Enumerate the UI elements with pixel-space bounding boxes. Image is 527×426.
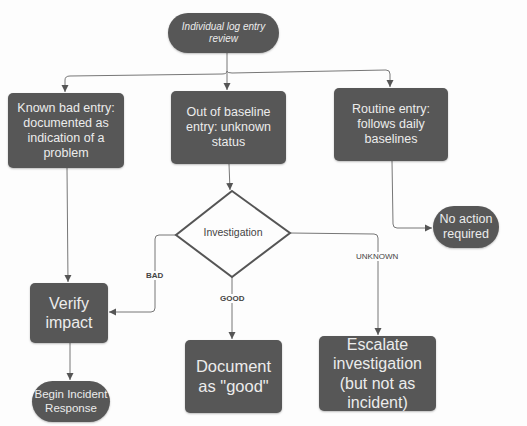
investigation-label: Investigation bbox=[186, 226, 280, 238]
edge-label-good: GOOD bbox=[219, 294, 245, 303]
edge-out-of-baseline-investigation bbox=[229, 164, 230, 190]
edge-label-unknown: UNKNOWN bbox=[355, 252, 399, 261]
edge-start-routine bbox=[227, 70, 390, 87]
verify-impact-node[interactable]: Verify impact bbox=[30, 283, 108, 343]
edge-known-bad-verify bbox=[67, 168, 68, 282]
known-bad-entry-label: Known bad entry: documented as indicatio… bbox=[12, 101, 120, 161]
out-of-baseline-entry-node[interactable]: Out of baseline entry: unknown status bbox=[171, 91, 286, 164]
edge-label-bad: BAD bbox=[145, 271, 164, 280]
out-of-baseline-entry-label: Out of baseline entry: unknown status bbox=[175, 105, 282, 150]
verify-impact-label: Verify impact bbox=[30, 294, 108, 332]
edge-start-known-bad bbox=[65, 71, 227, 92]
routine-entry-label: Routine entry: follows daily baselines bbox=[338, 102, 444, 147]
start-node[interactable]: Individual log entry review bbox=[168, 13, 279, 53]
known-bad-entry-node[interactable]: Known bad entry: documented as indicatio… bbox=[8, 93, 124, 168]
begin-incident-response-label: Begin Incident Response bbox=[32, 388, 110, 416]
routine-entry-node[interactable]: Routine entry: follows daily baselines bbox=[334, 88, 448, 161]
document-as-good-node[interactable]: Document as "good" bbox=[185, 340, 282, 413]
edge-investigation-bad bbox=[109, 235, 176, 312]
escalate-investigation-label: Escalate investigation (but not as incid… bbox=[319, 335, 436, 412]
escalate-investigation-node[interactable]: Escalate investigation (but not as incid… bbox=[319, 336, 436, 411]
no-action-node[interactable]: No action required bbox=[433, 206, 499, 248]
start-node-label: Individual log entry review bbox=[168, 21, 279, 45]
no-action-label: No action required bbox=[433, 212, 499, 242]
begin-incident-response-node[interactable]: Begin Incident Response bbox=[32, 381, 110, 422]
edge-routine-no-action bbox=[392, 161, 432, 228]
edge-investigation-unknown bbox=[290, 233, 378, 335]
document-as-good-label: Document as "good" bbox=[185, 357, 282, 397]
